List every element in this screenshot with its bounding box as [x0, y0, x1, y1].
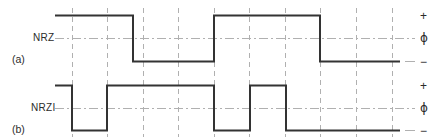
- nrz-level-minus-label: −: [420, 56, 427, 68]
- part-a-label: (a): [12, 54, 25, 65]
- midline-group: [55, 39, 415, 109]
- nrzi-level-phi-label: ϕ: [420, 102, 428, 114]
- nrzi-level-minus-label: −: [420, 125, 427, 137]
- waveform-canvas: [0, 0, 440, 139]
- nrzi-level-plus-label: +: [420, 80, 427, 92]
- nrz-level-phi-label: ϕ: [420, 32, 428, 44]
- nrz-signal-label: NRZ: [33, 33, 54, 43]
- part-b-label: (b): [12, 124, 25, 135]
- nrz-level-plus-label: +: [420, 10, 427, 22]
- waveform-figure: NRZ NRZI (a) (b) + ϕ − + ϕ −: [0, 0, 440, 139]
- gridline-group: [72, 8, 392, 137]
- nrzi-signal-label: NRZI: [31, 103, 56, 113]
- trace-group: [55, 16, 415, 131]
